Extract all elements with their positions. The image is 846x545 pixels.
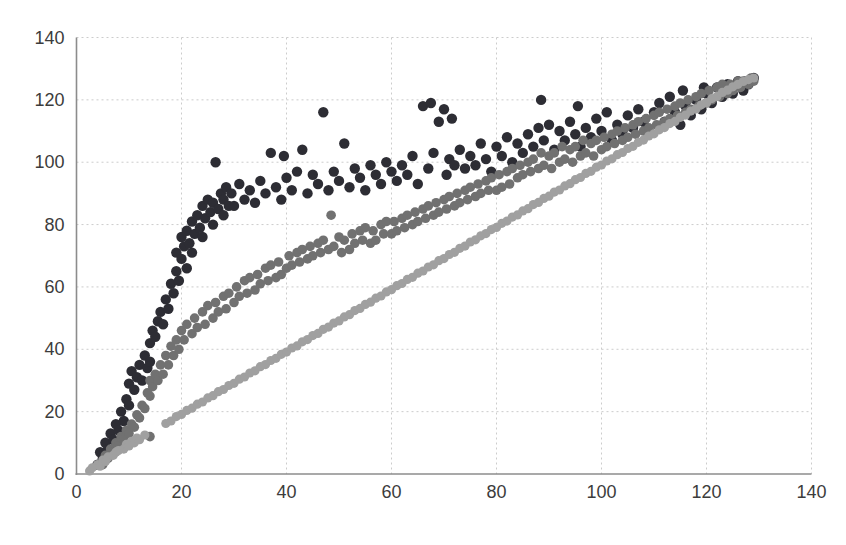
series-dark-point (528, 141, 538, 151)
series-light (85, 73, 758, 475)
series-dark-point (308, 170, 318, 180)
series-light-point (140, 430, 149, 439)
series-dark-point (439, 104, 449, 114)
series-dark-point (581, 123, 591, 133)
series-medium-point (529, 154, 539, 164)
series-dark-point (229, 201, 239, 211)
series-dark-point (434, 117, 444, 127)
series-dark-point (544, 120, 554, 130)
series-medium-point (319, 235, 329, 245)
series-dark-point (163, 304, 173, 314)
series-dark-point (187, 247, 197, 257)
series-dark-point (502, 132, 512, 142)
series-dark-point (171, 266, 181, 276)
series-medium-point (190, 313, 200, 323)
series-dark-point (287, 185, 297, 195)
series-dark-point (318, 107, 328, 117)
chart-page: 020406080100120140020406080100120140 (0, 0, 846, 545)
series-medium-point (571, 142, 581, 152)
series-medium-point (340, 235, 350, 245)
x-axis-tick-label: 20 (171, 482, 191, 502)
series-dark-point (402, 170, 412, 180)
series-dark-point (355, 173, 365, 183)
series-medium-point (274, 257, 284, 267)
series-medium-point (174, 345, 184, 355)
series-dark-point (339, 138, 349, 148)
series-medium-point (589, 151, 599, 161)
series-dark-point (279, 151, 289, 161)
series-dark-point (276, 194, 286, 204)
x-axis-tick-label: 60 (381, 482, 401, 502)
series-dark-point (441, 170, 451, 180)
series-dark-point (565, 117, 575, 127)
series-medium-point (568, 157, 578, 167)
x-axis-tick-label: 140 (796, 482, 826, 502)
series-dark-point (591, 113, 601, 123)
series-dark-point (371, 170, 381, 180)
series-dark-point (313, 179, 323, 189)
y-axis-tick-label: 120 (34, 90, 64, 110)
series-dark-point (413, 179, 423, 189)
series-dark-point (536, 95, 546, 105)
series-dark-point (218, 210, 228, 220)
series-dark-point (654, 98, 664, 108)
series-dark-point (168, 288, 178, 298)
series-dark-point (334, 176, 344, 186)
series-dark-point (386, 166, 396, 176)
series-dark-point (623, 110, 633, 120)
y-axis-tick-label: 140 (34, 28, 64, 48)
series-medium-point (182, 320, 192, 330)
series-medium-point (200, 320, 210, 330)
series-medium-point (130, 422, 140, 432)
y-axis-tick-label: 40 (44, 339, 64, 359)
series-dark-point (397, 160, 407, 170)
series-dark-point (476, 138, 486, 148)
series-dark-point (539, 135, 549, 145)
x-axis-tick-label: 100 (586, 482, 616, 502)
series-dark-point (426, 98, 436, 108)
series-dark-point (350, 163, 360, 173)
series-medium-point (221, 304, 231, 314)
x-axis-tick-label: 0 (71, 482, 81, 502)
series-medium-point (505, 179, 515, 189)
series-dark-point (226, 188, 236, 198)
series-dark-point (323, 185, 333, 195)
series-dark-point (381, 157, 391, 167)
series-dark-point (271, 182, 281, 192)
series-medium-point (135, 413, 145, 423)
series-dark-point (512, 138, 522, 148)
series-dark-point (174, 276, 184, 286)
series-dark-point (124, 400, 134, 410)
series-medium-point (253, 270, 263, 280)
series-dark-point (497, 151, 507, 161)
series-dark-point (678, 85, 688, 95)
x-axis-tick-label: 120 (691, 482, 721, 502)
series-medium-point (140, 404, 150, 414)
series-dark-point (195, 223, 205, 233)
series-medium-point (329, 242, 339, 252)
scatter-chart: 020406080100120140020406080100120140 (0, 0, 846, 545)
y-axis-tick-label: 80 (44, 215, 64, 235)
series-dark-point (365, 160, 375, 170)
series-dark-point (158, 319, 168, 329)
series-dark-point (197, 232, 207, 242)
y-axis-tick-label: 0 (54, 464, 64, 484)
series-medium-point (158, 369, 168, 379)
series-dark-point (250, 198, 260, 208)
series-dark-point (344, 182, 354, 192)
series-dark-point (208, 219, 218, 229)
series-dark-point (184, 238, 194, 248)
series-dark-point (210, 157, 220, 167)
series-dark-point (470, 160, 480, 170)
series-dark-point (292, 166, 302, 176)
series-dark-point (176, 254, 186, 264)
series-dark-point (281, 173, 291, 183)
series-medium-point (224, 288, 234, 298)
series-medium-point (326, 210, 336, 220)
series-dark-point (481, 154, 491, 164)
series-dark-point (447, 113, 457, 123)
series-dark-point (407, 151, 417, 161)
series-dark-point (182, 263, 192, 273)
series-dark-point (245, 185, 255, 195)
series-medium-point (164, 360, 174, 370)
